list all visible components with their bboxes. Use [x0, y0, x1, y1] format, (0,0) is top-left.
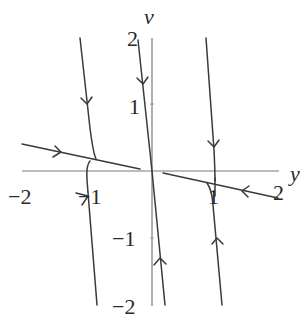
arrow-up-icon [154, 258, 166, 265]
phase-portrait: v y −2 −1 1 2 2 1 −1 −2 [0, 0, 307, 323]
arrow-up-icon [212, 238, 223, 244]
v-tick-label-neg2: −2 [112, 296, 135, 318]
v-tick-label-neg1: −1 [112, 228, 135, 250]
vertical-axis-label: v [144, 6, 154, 28]
horizontal-axis-label: y [290, 163, 300, 185]
left-lower-curve [87, 161, 97, 305]
v-tick-label-1: 1 [129, 96, 140, 118]
phase-portrait-plot [0, 0, 307, 323]
h-tick-label-1: 1 [208, 186, 219, 208]
h-tick-label-2: 2 [273, 182, 284, 204]
slow-manifold-left [22, 144, 140, 169]
slow-manifold-right [163, 173, 278, 198]
right-upper-curve [206, 38, 215, 181]
v-tick-label-2: 2 [127, 28, 138, 50]
h-tick-label-neg2: −2 [8, 186, 31, 208]
h-tick-label-neg1: −1 [78, 186, 101, 208]
